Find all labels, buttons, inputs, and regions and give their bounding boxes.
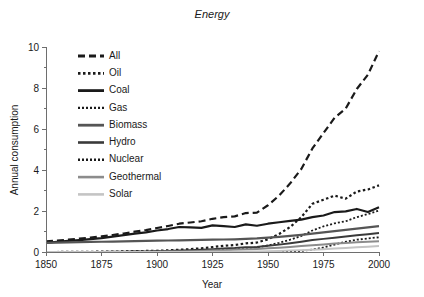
legend-label-nuclear: Nuclear: [109, 153, 144, 164]
x-tick-label: 1875: [90, 259, 113, 270]
y-tick-label: 2: [33, 206, 39, 217]
legend-label-gas: Gas: [109, 102, 127, 113]
y-axis-title: Annual consumption: [9, 105, 20, 196]
legend-label-all: All: [109, 50, 120, 61]
x-tick-label: 1975: [312, 259, 335, 270]
energy-consumption-chart: Energy 024681018501875190019251950197520…: [0, 0, 424, 297]
y-tick-label: 0: [33, 247, 39, 258]
chart-title: Energy: [195, 8, 231, 20]
x-tick-label: 1850: [35, 259, 58, 270]
y-tick-label: 4: [33, 165, 39, 176]
x-axis-title: Year: [202, 279, 223, 290]
x-tick-label: 1950: [257, 259, 280, 270]
legend-label-geothermal: Geothermal: [109, 171, 161, 182]
legend-label-solar: Solar: [109, 188, 133, 199]
y-tick-label: 6: [33, 124, 39, 135]
y-tick-label: 8: [33, 83, 39, 94]
legend-label-oil: Oil: [109, 67, 121, 78]
legend-label-hydro: Hydro: [109, 136, 136, 147]
legend-label-biomass: Biomass: [109, 119, 147, 130]
x-tick-label: 2000: [368, 259, 391, 270]
x-tick-label: 1900: [146, 259, 169, 270]
legend-label-coal: Coal: [109, 84, 130, 95]
x-tick-label: 1925: [201, 259, 224, 270]
y-tick-label: 10: [28, 42, 40, 53]
